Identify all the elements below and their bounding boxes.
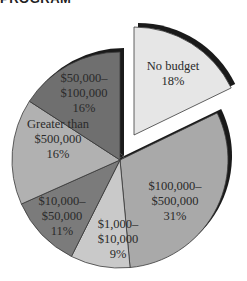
- pie-chart: No budget18%$100,000–$500,00031%$1,000–$…: [0, 0, 247, 281]
